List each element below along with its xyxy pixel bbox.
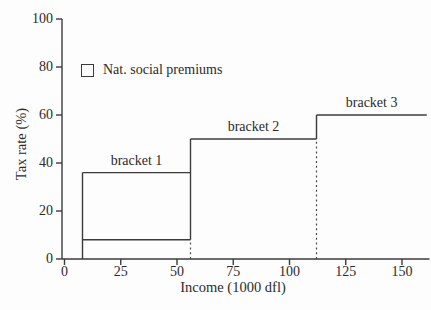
bracket-label: bracket 3 (346, 94, 398, 111)
y-tick-label: 40 (39, 156, 53, 170)
x-tick-label: 0 (61, 265, 68, 279)
bracket-label: bracket 1 (111, 152, 163, 169)
x-tick-label: 50 (170, 265, 184, 279)
y-tick-label: 100 (32, 12, 53, 26)
y-tick-label: 0 (46, 252, 53, 266)
x-tick-label: 150 (392, 265, 413, 279)
x-tick-label: 125 (335, 265, 356, 279)
legend: Nat. social premiums (81, 62, 222, 78)
y-tick-label: 80 (39, 60, 53, 74)
y-tick-label: 20 (39, 204, 53, 218)
x-tick-label: 25 (114, 265, 128, 279)
x-tick-label: 100 (279, 265, 300, 279)
x-axis-title: Income (1000 dfl) (180, 279, 286, 296)
open-square-icon (81, 64, 94, 77)
y-tick-label: 60 (39, 108, 53, 122)
legend-label: Nat. social premiums (103, 62, 222, 78)
x-tick-label: 75 (226, 265, 240, 279)
tax-rate-step-chart: Tax rate (%) Income (1000 dfl) Nat. soci… (0, 0, 431, 310)
bracket-label: bracket 2 (228, 118, 280, 135)
y-axis-title: Tax rate (%) (13, 108, 30, 180)
